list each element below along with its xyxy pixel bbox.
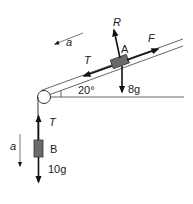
label-f: F xyxy=(148,32,156,44)
label-a-incline: a xyxy=(66,36,72,48)
block-b xyxy=(34,140,43,157)
pulley xyxy=(38,91,51,104)
label-a-block: A xyxy=(121,43,129,55)
label-weight-a: 8g xyxy=(128,83,140,95)
incline-plane xyxy=(41,39,183,96)
arrow-f xyxy=(127,49,158,60)
label-t-incline: T xyxy=(84,54,92,66)
arrow-t-incline xyxy=(84,66,112,76)
pulley-diagram: R F A T 8g 20° a T B 10g a xyxy=(0,0,193,204)
label-b-block: B xyxy=(50,143,57,155)
arrow-r xyxy=(114,30,120,58)
label-weight-b: 10g xyxy=(48,163,66,175)
label-t-vertical: T xyxy=(49,116,57,128)
label-angle: 20° xyxy=(78,84,95,96)
label-a-vertical: a xyxy=(10,140,16,152)
label-r: R xyxy=(113,16,121,28)
